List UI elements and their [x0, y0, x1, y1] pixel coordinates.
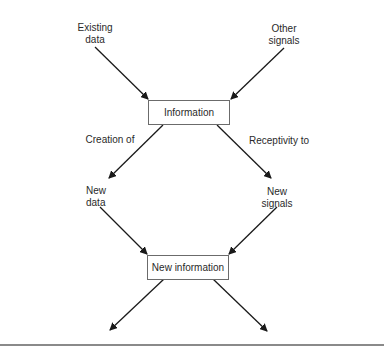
new-data-label: New data	[86, 185, 114, 209]
bottom-divider	[0, 344, 384, 346]
arrow-existing-to-information	[95, 47, 148, 99]
arrow-new-data-to-new-information	[100, 207, 147, 254]
arrows-layer	[0, 0, 384, 355]
other-signals-label: Other signals	[264, 23, 304, 47]
arrow-signals-to-information	[231, 48, 284, 99]
arrow-new-information-right	[213, 279, 267, 331]
creation-of-label: Creation of	[84, 134, 136, 146]
arrow-information-to-new-data	[109, 125, 163, 178]
new-signals-label: New signals	[257, 186, 297, 210]
arrow-new-signals-to-new-information	[229, 207, 277, 254]
new-information-box: New information	[147, 255, 229, 280]
information-box: Information	[148, 100, 230, 125]
arrow-information-to-new-signals	[217, 125, 271, 178]
arrow-new-information-left	[110, 279, 164, 330]
receptivity-to-label: Receptivity to	[244, 135, 314, 147]
existing-data-label: Existing data	[72, 22, 118, 46]
